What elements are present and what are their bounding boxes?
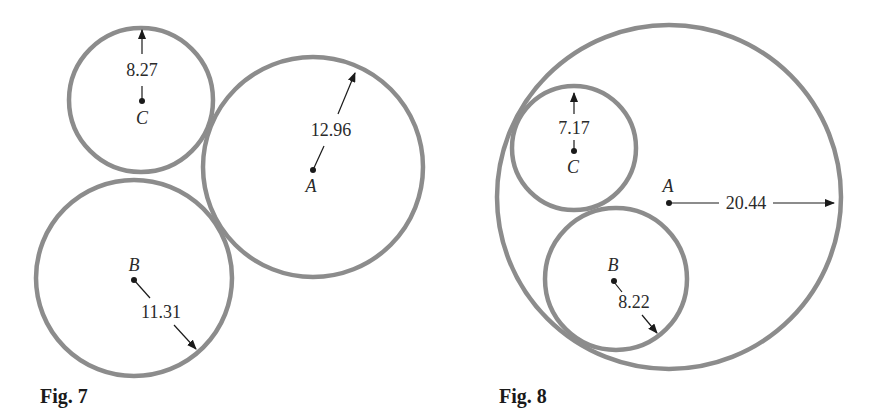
fig8-b-point-label: B (608, 255, 619, 275)
fig8-caption: Fig. 8 (499, 385, 547, 408)
fig8-a-radius-label: 20.44 (726, 193, 767, 213)
fig7-circle-b: 11.31 B (36, 180, 232, 376)
fig7-b-radius-arrow (174, 325, 196, 349)
fig8-c-radius-label: 7.17 (558, 118, 590, 138)
fig7-b-center-dot (131, 277, 137, 283)
fig8-circle-b: 8.22 B (545, 208, 687, 350)
fig7-a-point-label: A (305, 176, 318, 196)
fig8-b-radius-label: 8.22 (618, 292, 650, 312)
diagram-canvas: 8.27 C 12.96 A 11.31 B Fig. 7 (0, 0, 877, 410)
fig8-circle-a: 20.44 A (497, 25, 841, 369)
fig7-b-radius-label: 11.31 (141, 302, 181, 322)
fig7-c-center-dot (139, 98, 145, 104)
fig7-a-radius-label: 12.96 (311, 120, 352, 140)
fig7-circle-a: 12.96 A (203, 57, 423, 277)
fig7-b-point-label: B (129, 255, 140, 275)
fig8-c-center-dot (571, 148, 577, 154)
fig8-a-point-label: A (662, 176, 675, 196)
fig8-b-center-dot (611, 278, 617, 284)
fig8-circle-c: 7.17 C (512, 86, 636, 210)
fig8-c-point-label: C (567, 157, 580, 177)
fig7-circle-c: 8.27 C (69, 28, 213, 172)
fig7-a-center-dot (310, 167, 316, 173)
fig7-a-radius-arrow (338, 73, 355, 114)
figure-8: 20.44 A 7.17 C 8.22 B Fig. 8 (497, 25, 841, 408)
figure-7: 8.27 C 12.96 A 11.31 B Fig. 7 (36, 28, 423, 408)
fig8-a-center-dot (666, 200, 672, 206)
fig7-a-radius-line (313, 146, 324, 170)
fig7-c-point-label: C (136, 108, 149, 128)
fig7-caption: Fig. 7 (40, 385, 88, 408)
fig8-circle-a-outline (497, 25, 841, 369)
fig7-c-radius-label: 8.27 (126, 60, 158, 80)
fig7-b-radius-line (134, 280, 150, 298)
fig8-b-radius-arrow (642, 315, 657, 333)
